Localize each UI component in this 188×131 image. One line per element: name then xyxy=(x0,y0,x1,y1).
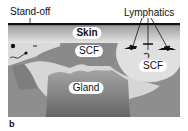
lymph-node-dot xyxy=(11,44,15,48)
skin-label: Skin xyxy=(72,27,101,39)
panel-letter: b xyxy=(9,120,15,129)
scf-right-label: SCF xyxy=(139,60,167,72)
scf-left-label: SCF xyxy=(75,45,103,57)
gland-label: Gland xyxy=(69,82,104,94)
standoff-label: Stand-off xyxy=(10,7,50,17)
lymphatics-label: Lymphatics xyxy=(124,8,174,18)
